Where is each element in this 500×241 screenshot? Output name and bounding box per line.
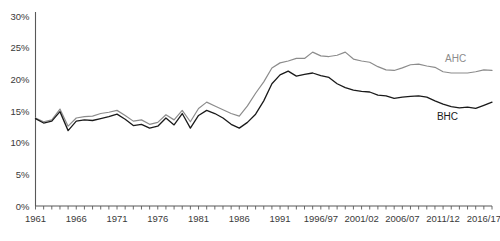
- y-tick-label: 25%: [10, 42, 30, 53]
- x-tick-label: 1971: [106, 213, 127, 224]
- line-chart: 0%5%10%15%20%25%30% 19611966197119761981…: [0, 0, 500, 241]
- y-axis-tick-labels: 0%5%10%15%20%25%30%: [10, 11, 30, 212]
- x-tick-label: 1966: [66, 213, 87, 224]
- x-axis-tick-labels: 19611966197119761981198619911996/972001/…: [25, 213, 500, 224]
- y-tick-label: 20%: [10, 74, 30, 85]
- x-tick-label: 2001/02: [344, 213, 378, 224]
- y-tick-label: 5%: [16, 169, 30, 180]
- x-tick-label: 2006/07: [385, 213, 419, 224]
- x-tick-label: 1961: [25, 213, 46, 224]
- y-tick-label: 10%: [10, 137, 30, 148]
- x-tick-label: 1996/97: [304, 213, 338, 224]
- x-tick-label: 1981: [188, 213, 209, 224]
- x-tick-label: 2011/12: [426, 213, 460, 224]
- chart-canvas: 0%5%10%15%20%25%30% 19611966197119761981…: [0, 0, 500, 241]
- x-tick-label: 1976: [147, 213, 168, 224]
- series-line-ahc: [36, 52, 493, 126]
- x-tick-label: 1986: [229, 213, 250, 224]
- y-tick-label: 15%: [10, 106, 30, 117]
- y-tick-label: 0%: [16, 201, 30, 212]
- x-tick-label: 2016/17: [467, 213, 500, 224]
- series-line-bhc: [36, 71, 493, 131]
- y-tick-label: 30%: [10, 11, 30, 22]
- x-tick-label: 1991: [269, 213, 290, 224]
- series-label-bhc: BHC: [437, 111, 458, 122]
- series-label-ahc: AHC: [445, 53, 466, 64]
